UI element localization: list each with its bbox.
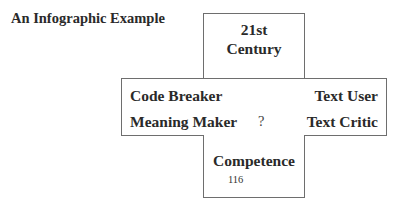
label-meaning-maker: Meaning Maker (130, 113, 237, 131)
top-box-label: 21st Century (204, 20, 304, 58)
page-title: An Infographic Example (11, 10, 165, 27)
top-box-line1: 21st (204, 20, 304, 39)
top-box-line2: Century (204, 39, 304, 58)
bottom-box: Competence 116 (203, 135, 305, 198)
middle-box: Code Breaker Text User Meaning Maker ? T… (121, 78, 387, 136)
label-question-mark: ? (258, 113, 264, 130)
label-text-user: Text User (314, 87, 378, 105)
label-text-critic: Text Critic (307, 113, 378, 131)
page-number: 116 (228, 174, 243, 185)
label-competence: Competence (204, 152, 304, 170)
label-code-breaker: Code Breaker (130, 87, 222, 105)
top-box: 21st Century (203, 13, 305, 79)
